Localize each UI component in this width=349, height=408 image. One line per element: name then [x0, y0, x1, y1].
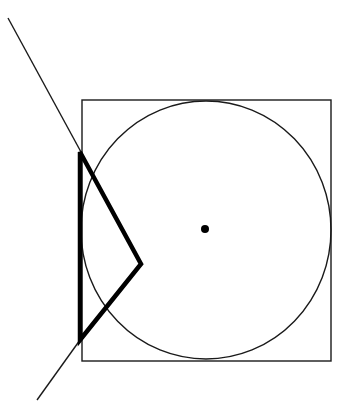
- upper-thin-line: [8, 18, 81, 152]
- center-point: [201, 225, 209, 233]
- lower-thin-line: [37, 340, 80, 400]
- diagram-canvas: [0, 0, 349, 408]
- thick-triangle: [80, 152, 141, 340]
